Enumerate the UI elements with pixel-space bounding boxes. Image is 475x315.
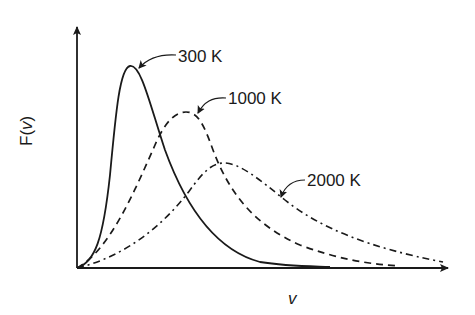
y-axis-label: F(v)	[17, 116, 36, 146]
annotation-arrow-2000k	[281, 180, 305, 197]
label-300k: 300 K	[178, 47, 223, 66]
label-1000k: 1000 K	[228, 89, 283, 108]
annotation-arrow-300k	[139, 55, 176, 68]
axes	[77, 27, 448, 268]
x-axis-label: v	[288, 289, 298, 308]
label-2000k: 2000 K	[307, 171, 362, 190]
annotation-arrow-1000k	[198, 98, 226, 113]
maxwell-distribution-diagram: 300 K 1000 K 2000 K F(v) v	[0, 0, 475, 315]
curve-1000k	[77, 112, 400, 268]
curve-2000k	[77, 163, 443, 268]
curve-300k	[77, 66, 330, 268]
